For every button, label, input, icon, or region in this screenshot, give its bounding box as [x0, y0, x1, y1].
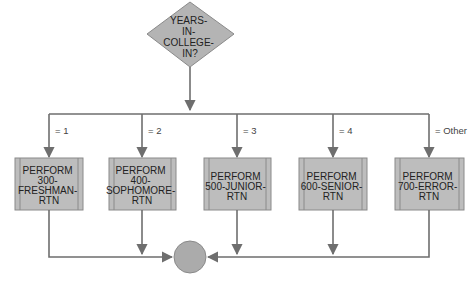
branch-label-5: = Other — [435, 125, 467, 136]
process-node-error: PERFORM 700-ERROR- RTN — [395, 158, 464, 210]
decision-node: YEARS- IN- COLLEGE- IN? — [147, 2, 234, 67]
merge-line-5 — [208, 210, 429, 257]
process-node-senior: PERFORM 600-SENIOR- RTN — [299, 158, 367, 210]
branch-label-4: = 4 — [339, 125, 352, 136]
branch-label-2: = 2 — [148, 125, 161, 136]
process-node-junior: PERFORM 500-JUNIOR- RTN — [204, 158, 271, 210]
merge-line-1 — [49, 210, 172, 257]
process-node-freshman: PERFORM 300- FRESHMAN- RTN — [15, 158, 83, 210]
branch-label-3: = 3 — [243, 125, 256, 136]
branch-label-1: = 1 — [55, 125, 68, 136]
process-node-sophomore: PERFORM 400- SOPHOMORE- RTN — [106, 158, 178, 210]
connector-circle — [174, 241, 206, 273]
flowchart: YEARS- IN- COLLEGE- IN? = 1 = 2 = 3 = 4 … — [0, 0, 476, 283]
